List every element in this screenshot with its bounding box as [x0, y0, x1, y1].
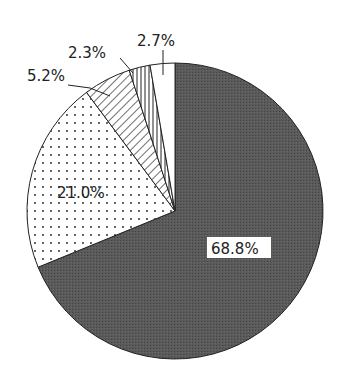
label-68.8: 68.8%: [207, 237, 271, 258]
slice-label-21.0: 21.0%: [57, 184, 105, 202]
pie-chart: 68.8% 21.0% 5.2% 2.3% 2.7%: [0, 0, 353, 380]
slice-label-2.3: 2.3%: [68, 44, 106, 62]
pie-slices: [27, 63, 323, 359]
slice-label-2.7: 2.7%: [137, 32, 175, 50]
slice-label-68.8: 68.8%: [211, 240, 259, 258]
slice-label-5.2: 5.2%: [27, 67, 65, 85]
